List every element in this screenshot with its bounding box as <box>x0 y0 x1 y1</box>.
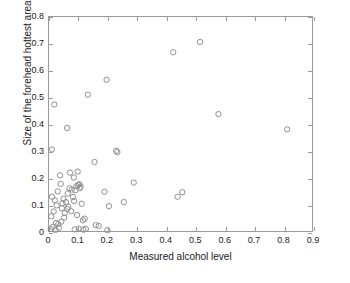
y-axis-label-wrapper: Size of the forehead hottest area[% of t… <box>13 16 25 232</box>
data-point <box>171 50 176 55</box>
data-point <box>114 148 119 153</box>
data-point <box>85 92 90 97</box>
data-point <box>180 190 185 195</box>
y-axis-tick <box>308 44 312 45</box>
y-axis-tick-label: 0.6 <box>31 65 44 76</box>
data-point <box>75 169 80 174</box>
x-axis-tick-label: 0 <box>45 235 50 246</box>
y-axis-tick <box>308 179 312 180</box>
data-point <box>74 212 79 217</box>
y-axis-tick <box>308 125 312 126</box>
y-axis-tick-label: 0.5 <box>31 92 44 103</box>
data-point <box>79 201 84 206</box>
y-axis-label: Size of the forehead hottest area[% of t… <box>22 0 33 146</box>
y-axis-tick-label: 0.2 <box>31 173 44 184</box>
x-axis-tick-label: 0.1 <box>71 235 84 246</box>
x-axis-tick <box>78 227 79 231</box>
y-axis-tick <box>308 17 312 18</box>
data-point <box>216 111 221 116</box>
x-axis-tick <box>314 17 315 21</box>
x-axis-tick-label: 0.8 <box>277 235 290 246</box>
plot-area <box>48 16 313 232</box>
data-point <box>52 102 57 107</box>
y-axis-tick-label: 0.4 <box>31 119 44 130</box>
x-axis-tick <box>108 17 109 21</box>
x-axis-tick-label: 0.5 <box>189 235 202 246</box>
y-axis-tick <box>49 17 53 18</box>
y-axis-tick <box>308 233 312 234</box>
x-axis-tick <box>314 227 315 231</box>
data-point <box>121 199 126 204</box>
x-axis-tick <box>167 227 168 231</box>
x-axis-tick <box>137 227 138 231</box>
x-axis-label: Measured alcohol level <box>48 251 313 262</box>
x-axis-tick <box>49 227 50 231</box>
x-axis-tick-label: 0.4 <box>160 235 173 246</box>
data-points-layer <box>49 17 312 231</box>
x-axis-tick-label: 0.3 <box>130 235 143 246</box>
data-point <box>49 194 54 199</box>
x-axis-tick-label: 0.7 <box>248 235 261 246</box>
y-axis-tick <box>49 98 53 99</box>
x-axis-tick <box>285 17 286 21</box>
x-axis-tick-label: 0.2 <box>101 235 114 246</box>
y-axis-tick <box>308 71 312 72</box>
y-axis-tick <box>308 98 312 99</box>
x-axis-tick <box>226 227 227 231</box>
data-point <box>58 181 63 186</box>
x-axis-tick <box>78 17 79 21</box>
data-point <box>57 173 62 178</box>
data-point <box>67 170 72 175</box>
y-axis-tick-label: 0.1 <box>31 200 44 211</box>
scatter-plot-figure: 00.10.20.30.40.50.60.70.80.9 00.10.20.30… <box>0 0 350 283</box>
data-point <box>102 189 107 194</box>
data-point <box>55 189 60 194</box>
x-axis-tick <box>196 17 197 21</box>
y-axis-tick <box>49 125 53 126</box>
y-axis-tick-label: 0.8 <box>31 11 44 22</box>
x-axis-tick-label: 0.9 <box>307 235 320 246</box>
data-point <box>92 159 97 164</box>
data-point <box>106 203 111 208</box>
x-axis-tick <box>226 17 227 21</box>
y-axis-tick <box>308 152 312 153</box>
x-axis-tick-label: 0.6 <box>218 235 231 246</box>
y-axis-tick-label: 0.3 <box>31 146 44 157</box>
data-point <box>71 175 76 180</box>
data-point <box>284 127 289 132</box>
x-axis-tick <box>196 227 197 231</box>
data-point <box>51 209 56 214</box>
y-axis-tick <box>49 71 53 72</box>
data-point <box>131 180 136 185</box>
y-axis-tick-label: 0 <box>39 227 44 238</box>
y-axis-tick <box>49 152 53 153</box>
data-point <box>64 125 69 130</box>
y-axis-tick <box>49 44 53 45</box>
y-axis-tick <box>49 179 53 180</box>
x-axis-tick <box>108 227 109 231</box>
y-axis-tick-label: 0.7 <box>31 38 44 49</box>
x-axis-tick <box>255 227 256 231</box>
data-point <box>197 39 202 44</box>
y-axis-tick <box>49 233 53 234</box>
data-point <box>54 203 59 208</box>
data-point <box>104 77 109 82</box>
x-axis-tick <box>137 17 138 21</box>
y-axis-tick <box>49 206 53 207</box>
x-axis-tick <box>285 227 286 231</box>
x-axis-tick <box>167 17 168 21</box>
y-axis-tick <box>308 206 312 207</box>
x-axis-tick <box>255 17 256 21</box>
data-point <box>175 194 180 199</box>
